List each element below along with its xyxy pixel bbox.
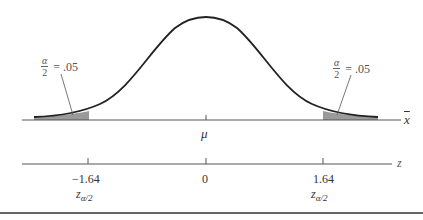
z-tick-label-zero: 0: [202, 173, 208, 185]
z-critical-right-sub: α/2: [316, 193, 328, 203]
z-critical-left-sub: α/2: [81, 193, 93, 203]
z-axis-label: z: [397, 157, 402, 169]
left-alpha-value: = .05: [53, 60, 78, 74]
z-tick-label-neg: −1.64: [72, 173, 100, 185]
left-tail-annotation: α 2 = .05: [41, 56, 78, 78]
right-tail-region: [323, 111, 378, 120]
x-axis-label: x: [404, 113, 410, 126]
z-tick-label-pos: 1.64: [313, 173, 334, 185]
right-alpha-denominator: 2: [334, 69, 339, 80]
figure-graphics: [0, 0, 423, 220]
right-tail-annotation: α 2 = .05: [333, 58, 370, 80]
left-alpha-fraction: α 2: [41, 56, 48, 78]
z-critical-right-main: z: [311, 187, 316, 201]
left-alpha-numerator: α: [41, 56, 48, 67]
right-alpha-fraction: α 2: [333, 58, 340, 80]
left-tail-region: [34, 111, 89, 120]
left-leader-line: [61, 74, 73, 115]
right-alpha-value: = .05: [345, 62, 370, 76]
right-leader-line: [337, 75, 351, 115]
mu-label: μ: [201, 127, 208, 140]
left-alpha-denominator: 2: [42, 67, 47, 78]
normal-distribution-figure: α 2 = .05 α 2 = .05 x μ z −1.64 0 1.64 z…: [0, 0, 423, 220]
z-critical-label-right: zα/2: [311, 188, 327, 200]
z-critical-label-left: zα/2: [76, 188, 92, 200]
right-alpha-numerator: α: [333, 58, 340, 69]
z-critical-left-main: z: [76, 187, 81, 201]
bell-curve: [34, 17, 378, 117]
